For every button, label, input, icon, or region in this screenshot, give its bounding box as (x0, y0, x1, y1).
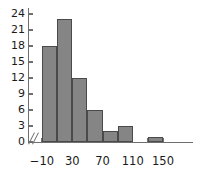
histogram-bar (103, 131, 118, 142)
y-tick (28, 77, 33, 78)
x-tick-label: −10 (30, 155, 54, 167)
x-tick-label: 30 (65, 155, 80, 167)
y-tick (28, 29, 33, 30)
histogram-bar (57, 19, 72, 142)
y-tick-label: 9 (1, 88, 25, 99)
y-tick (28, 109, 33, 110)
histogram-chart: 03691215182124 −103070110150 (0, 0, 201, 181)
x-tick-label: 70 (95, 155, 110, 167)
histogram-bar (87, 110, 102, 142)
histogram-bar (42, 46, 57, 142)
x-axis-line (28, 142, 193, 143)
y-axis-line (28, 8, 29, 142)
histogram-bar (148, 137, 163, 142)
y-tick (28, 141, 33, 142)
y-tick-label: 24 (1, 8, 25, 19)
y-tick-label: 3 (1, 120, 25, 131)
y-tick-label: 12 (1, 72, 25, 83)
y-tick-label: 0 (1, 136, 25, 147)
y-tick (28, 61, 33, 62)
histogram-bar (118, 126, 133, 142)
y-tick (28, 45, 33, 46)
y-tick-label: 6 (1, 104, 25, 115)
y-tick (28, 13, 33, 14)
y-tick-label: 18 (1, 40, 25, 51)
histogram-bar (72, 78, 87, 142)
x-tick-label: 150 (152, 155, 174, 167)
y-tick-label: 21 (1, 24, 25, 35)
x-tick-label: 110 (122, 155, 144, 167)
y-tick (28, 125, 33, 126)
y-tick (28, 93, 33, 94)
y-tick-label: 15 (1, 56, 25, 67)
